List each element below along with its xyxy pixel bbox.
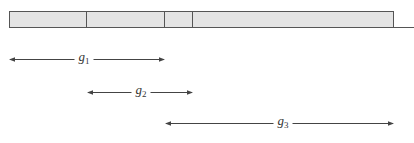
bar-segment-1 (10, 12, 87, 28)
span-label-g3: g3 (274, 114, 293, 132)
bar-segment-4 (193, 12, 394, 28)
span-label-g1-sub: 1 (85, 56, 90, 66)
segment-diagram (0, 0, 414, 143)
segmented-bar (10, 12, 414, 28)
bar-segment-3 (165, 12, 193, 28)
span-label-g1: g1 (75, 50, 94, 68)
span-label-g2-sub: 2 (142, 89, 147, 99)
bar-segment-2 (87, 12, 165, 28)
span-label-g2: g2 (132, 83, 151, 101)
span-label-g3-sub: 3 (284, 120, 289, 130)
